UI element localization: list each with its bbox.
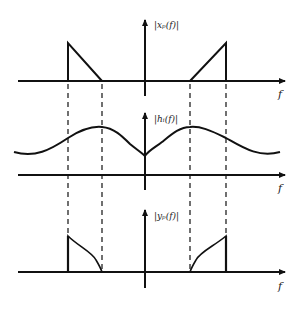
panel-xp: |xₚ(f)| f [18, 20, 285, 101]
panel-hi: |hᵢ(f)| f [14, 113, 285, 195]
xlabel-f: f [277, 182, 284, 195]
left-output-shape [68, 236, 102, 272]
right-triangle [190, 43, 226, 81]
filter-response-curve [14, 127, 280, 156]
xlabel-f: f [277, 280, 284, 293]
ylabel-xp: |xₚ(f)| [154, 20, 179, 31]
spectrum-diagram: |xₚ(f)| f |hᵢ(f)| f |yₚ(f)| f [0, 0, 303, 309]
dashed-guides [68, 84, 226, 272]
xlabel-f: f [277, 88, 284, 101]
ylabel-hi: |hᵢ(f)| [154, 114, 178, 125]
right-output-shape [190, 236, 226, 272]
panel-yp: |yₚ(f)| f [18, 210, 285, 293]
left-triangle [68, 43, 102, 81]
ylabel-yp: |yₚ(f)| [154, 211, 179, 222]
